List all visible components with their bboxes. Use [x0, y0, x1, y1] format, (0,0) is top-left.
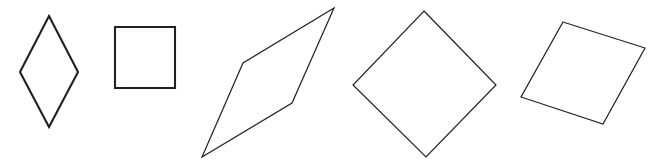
- shapes-svg-canvas: [0, 0, 665, 168]
- shape-square-axis-aligned: [115, 27, 175, 88]
- shape-parallelogram-slanted: [202, 8, 334, 157]
- shape-square-rotated-slight: [521, 22, 645, 124]
- shape-rhombus-tall: [20, 16, 78, 127]
- shape-square-rotated-45: [353, 11, 496, 157]
- shapes-figure: [0, 0, 665, 168]
